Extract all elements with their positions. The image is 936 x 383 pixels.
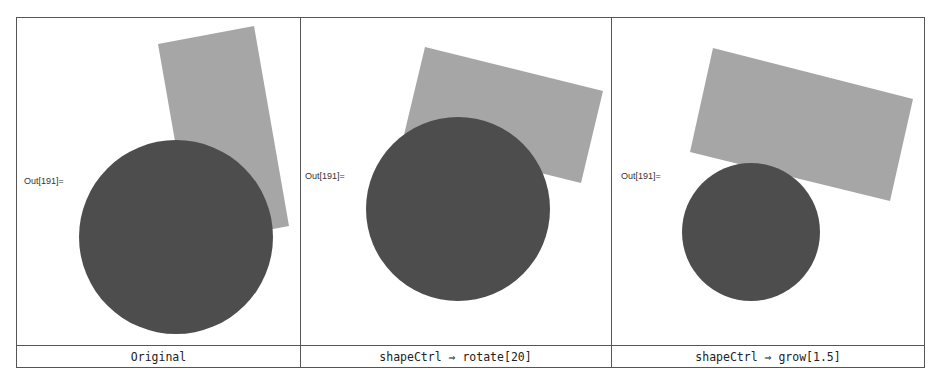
out-label-rotated: Out[191]= [305,171,345,181]
caption-grown: shapeCtrl ⇒ grow[1.5] [611,346,925,368]
circle-grown [682,163,820,301]
shapes-canvas [0,0,936,383]
caption-original: Original [17,346,300,368]
circle-original [79,140,273,334]
caption-rotated: shapeCtrl ⇒ rotate[20] [300,346,611,368]
out-label-original: Out[191]= [24,176,64,186]
circle-rotated [366,117,550,301]
out-label-grown: Out[191]= [621,171,661,181]
